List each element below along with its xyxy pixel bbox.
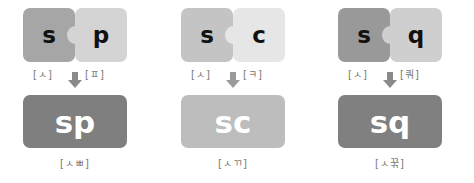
puzzle-knob	[225, 26, 241, 44]
puzzle-knob	[67, 26, 83, 44]
blend-result-sq: sq	[338, 95, 442, 148]
sound-label-p: [ㅍ]	[85, 66, 105, 81]
blend-group-sc: s c [ㅅ] [ㅋ] sc [ㅅㄲ]	[181, 0, 285, 183]
blend-group-sp: s p [ㅅ] [ㅍ] sp [ㅅㅃ]	[23, 0, 127, 183]
blend-sound-label-sq: [ㅅ꾺]	[338, 155, 442, 170]
sound-label-s: [ㅅ]	[191, 66, 211, 81]
blend-sound-label-sc: [ㅅㄲ]	[181, 155, 285, 170]
arrow-down-icon	[383, 72, 397, 88]
puzzle-knob	[382, 26, 398, 44]
blend-sound-label-sp: [ㅅㅃ]	[23, 155, 127, 170]
arrow-down-icon	[68, 72, 82, 88]
sound-label-s: [ㅅ]	[33, 66, 53, 81]
sound-label-q: [쿼]	[400, 66, 420, 81]
blend-result-sp: sp	[23, 95, 127, 148]
blend-result-sc: sc	[181, 95, 285, 148]
blend-group-sq: s q [ㅅ] [쿼] sq [ㅅ꾺]	[338, 0, 442, 183]
sound-label-s: [ㅅ]	[348, 66, 368, 81]
sound-label-c: [ㅋ]	[243, 66, 263, 81]
arrow-down-icon	[226, 72, 240, 88]
